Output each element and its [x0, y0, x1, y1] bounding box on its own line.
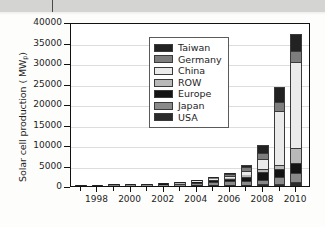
bar-segment-germany — [224, 174, 236, 176]
legend-swatch-icon — [154, 44, 173, 52]
bar-segment-row — [224, 178, 236, 179]
y-tick-label: 35000 — [18, 38, 62, 48]
bar-segment-taiwan — [191, 180, 203, 181]
bar-segment-germany — [208, 178, 220, 179]
y-tick-label: 30000 — [18, 58, 62, 68]
x-tick-mark — [262, 187, 263, 192]
bar-segment-usa — [274, 184, 286, 186]
bar-segment-germany — [241, 167, 253, 171]
legend-item-germany[interactable]: Germany — [154, 54, 222, 66]
legend-item-label: Germany — [178, 54, 222, 66]
bar-segment-europe — [191, 182, 203, 183]
legend-item-row[interactable]: ROW — [154, 77, 222, 89]
x-tick-mark — [113, 187, 114, 191]
y-tick-mark — [64, 187, 70, 188]
bar-stack — [224, 173, 236, 186]
bar-segment-china — [290, 62, 302, 148]
x-tick-mark — [96, 187, 97, 192]
bar-segment-usa — [257, 184, 269, 186]
bar-segment-row — [241, 175, 253, 176]
x-tick-mark — [212, 187, 213, 191]
bar-segment-japan — [290, 173, 302, 182]
chart-legend: TaiwanGermanyChinaROWEuropeJapanUSA — [149, 37, 229, 128]
bar-segment-usa — [241, 185, 253, 186]
bar-segment-taiwan — [241, 165, 253, 168]
bar-segment-europe — [224, 179, 236, 182]
y-tick-label: 20000 — [18, 99, 62, 109]
bar-stack — [108, 185, 120, 186]
x-tick-label: 2010 — [275, 194, 315, 204]
legend-item-japan[interactable]: Japan — [154, 100, 222, 112]
bar-segment-usa — [290, 182, 302, 187]
bar-segment-europe — [274, 169, 286, 177]
bar-stack — [274, 87, 286, 186]
bar-segment-china — [224, 176, 236, 178]
header-tick-mark — [52, 0, 53, 12]
bar-segment-japan — [224, 181, 236, 185]
bar-segment-usa — [208, 185, 220, 186]
bar-stack — [75, 185, 87, 186]
bar-segment-taiwan — [174, 182, 186, 183]
x-tick-mark — [229, 187, 230, 192]
bar-stack — [174, 182, 186, 186]
legend-item-label: USA — [178, 112, 198, 124]
x-tick-mark — [196, 187, 197, 192]
legend-item-taiwan[interactable]: Taiwan — [154, 42, 222, 54]
x-tick-mark — [295, 187, 296, 192]
x-tick-mark — [279, 187, 280, 191]
bar-segment-europe — [208, 180, 220, 182]
bar-segment-germany — [274, 102, 286, 111]
bar-stack — [158, 183, 170, 186]
legend-swatch-icon — [154, 55, 173, 63]
bar-segment-japan — [257, 180, 269, 185]
plot-area: TaiwanGermanyChinaROWEuropeJapanUSA — [70, 23, 310, 187]
legend-item-label: Taiwan — [178, 42, 210, 54]
bar-stack — [257, 145, 269, 186]
bar-segment-europe — [290, 163, 302, 173]
bar-segment-taiwan — [257, 145, 269, 152]
bar-segment-europe — [174, 183, 186, 184]
y-axis-title-suffix: ) — [17, 52, 28, 56]
bar-stack — [241, 164, 253, 186]
y-tick-label: 5000 — [18, 161, 62, 171]
bar-segment-row — [257, 169, 269, 172]
legend-item-label: ROW — [178, 77, 201, 89]
bar-segment-japan — [241, 181, 253, 185]
bar-segment-japan — [274, 177, 286, 183]
legend-item-label: China — [178, 65, 205, 77]
x-tick-mark — [179, 187, 180, 191]
bar-segment-taiwan — [274, 87, 286, 102]
page-header-band — [0, 0, 325, 12]
bar-stack — [290, 34, 302, 186]
bar-segment-taiwan — [108, 184, 120, 185]
bar-stack — [191, 180, 203, 186]
legend-rows: TaiwanGermanyChinaROWEuropeJapanUSA — [154, 42, 222, 123]
bar-segment-japan — [208, 182, 220, 185]
bar-segment-taiwan — [290, 34, 302, 52]
legend-item-europe[interactable]: Europe — [154, 88, 222, 100]
bar-segment-taiwan — [92, 185, 104, 186]
bar-segment-japan — [174, 184, 186, 185]
legend-swatch-icon — [154, 102, 173, 110]
legend-swatch-icon — [154, 67, 173, 75]
bar-segment-taiwan — [125, 184, 137, 185]
bar-segment-taiwan — [208, 177, 220, 178]
legend-item-usa[interactable]: USA — [154, 112, 222, 124]
legend-swatch-icon — [154, 79, 173, 87]
bar-segment-row — [274, 165, 286, 170]
bar-segment-china — [241, 171, 253, 176]
x-tick-mark — [130, 187, 131, 192]
bar-segment-taiwan — [141, 184, 153, 185]
y-tick-label: 40000 — [18, 17, 62, 27]
legend-swatch-icon — [154, 113, 173, 121]
bar-segment-row — [290, 148, 302, 163]
y-tick-label: 10000 — [18, 140, 62, 150]
bar-stack — [92, 185, 104, 186]
bar-segment-taiwan — [75, 185, 87, 186]
bar-segment-usa — [224, 185, 236, 186]
bar-segment-germany — [257, 153, 269, 159]
x-tick-mark — [245, 187, 246, 191]
bar-stack — [208, 177, 220, 186]
bar-segment-china — [274, 111, 286, 164]
legend-item-china[interactable]: China — [154, 65, 222, 77]
